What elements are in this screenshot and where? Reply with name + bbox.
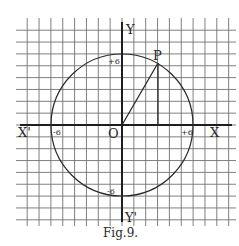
radius-op (122, 63, 158, 125)
tick-y-neg: -6 (107, 187, 115, 196)
figure-caption: Fig.9. (103, 226, 138, 240)
grid-lines (16, 18, 236, 226)
tick-y-pos: +6 (108, 57, 120, 66)
tick-x-pos: +6 (181, 128, 193, 137)
y-neg-axis-label: Y' (124, 210, 137, 225)
coordinate-diagram: Y Y' X X' O +6 -6 +6 -6 P Fig.9. (0, 0, 239, 246)
x-neg-axis-label: X' (18, 125, 31, 140)
origin-label: O (108, 126, 119, 141)
y-axis-label: Y (125, 22, 135, 37)
point-p-label: P (153, 48, 162, 63)
x-axis-label: X (210, 125, 220, 140)
tick-x-neg: -6 (53, 128, 61, 137)
